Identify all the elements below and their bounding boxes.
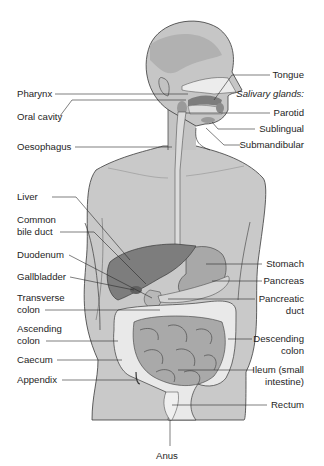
label-submandibular: Submandibular xyxy=(239,139,304,151)
label-rectum: Rectum xyxy=(271,399,304,411)
label-caecum: Caecum xyxy=(17,354,53,366)
label-parotid: Parotid xyxy=(274,107,304,119)
label-oral-cavity: Oral cavity xyxy=(17,111,62,123)
label-liver: Liver xyxy=(17,191,38,203)
label-stomach: Stomach xyxy=(266,258,304,270)
label-anus: Anus xyxy=(156,450,178,462)
label-transverse-colon: Transverse colon xyxy=(17,292,65,316)
label-appendix: Appendix xyxy=(17,374,57,386)
label-oesophagus: Oesophagus xyxy=(17,141,71,153)
label-salivary-glands: Salivary glands: xyxy=(236,88,304,100)
label-sublingual: Sublingual xyxy=(259,123,304,135)
digestive-system-diagram: Pharynx Oral cavity Oesophagus Liver Com… xyxy=(0,0,324,466)
label-gallbladder: Gallbladder xyxy=(17,271,66,283)
sublingual-gland xyxy=(201,117,215,123)
label-duodenum: Duodenum xyxy=(17,249,64,261)
label-descending-colon: Descending colon xyxy=(253,333,304,357)
label-tongue: Tongue xyxy=(273,69,304,81)
label-pancreatic-duct: Pancreatic duct xyxy=(259,293,304,317)
label-ascending-colon: Ascending colon xyxy=(17,323,62,347)
label-pancreas: Pancreas xyxy=(263,275,304,287)
label-ileum: Ileum (small intestine) xyxy=(252,364,304,388)
label-common-bile-duct: Common bile duct xyxy=(17,214,56,238)
label-pharynx: Pharynx xyxy=(17,88,52,100)
